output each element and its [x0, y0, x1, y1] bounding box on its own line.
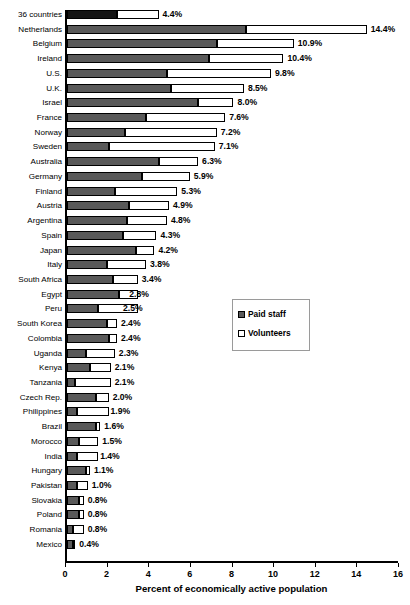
x-axis-tick [65, 563, 66, 567]
bar-segment-paid-staff [67, 187, 115, 196]
category-label: South Korea [17, 319, 62, 329]
x-axis-tick-label: 0 [62, 569, 67, 579]
bar-row: 7.6% [67, 113, 410, 122]
category-label: Japan [40, 246, 62, 256]
bar-value-label: 7.1% [219, 141, 239, 151]
bar-segment-paid-staff [67, 334, 109, 343]
bar-segment-paid-staff [67, 142, 109, 151]
bar-value-label: 5.3% [181, 186, 201, 196]
category-label: Israel [42, 98, 62, 108]
bar-row: 4.4% [67, 10, 410, 19]
bar-segment-volunteers [90, 363, 111, 372]
bar-segment-volunteers [117, 10, 159, 19]
x-axis-tick-label: 4 [146, 569, 151, 579]
legend-swatch-volunteers [238, 330, 245, 337]
category-label: Italy [47, 260, 62, 270]
bar-segment-volunteers [86, 466, 90, 475]
x-axis-tick [190, 563, 191, 567]
bar-segment-paid-staff [67, 246, 136, 255]
x-axis-tick-label: 2 [104, 569, 109, 579]
bar-segment-volunteers [96, 422, 100, 431]
x-axis-tick [315, 563, 316, 567]
bar-row: 0.4% [67, 540, 410, 549]
bar-row: 0.8% [67, 525, 410, 534]
bar-value-label: 5.9% [194, 171, 214, 181]
bar-segment-volunteers [146, 113, 225, 122]
bar-segment-volunteers [73, 540, 75, 549]
x-axis-tick-label: 12 [310, 569, 320, 579]
bar-segment-volunteers [159, 157, 199, 166]
bar-segment-paid-staff [67, 363, 90, 372]
bar-segment-volunteers [73, 525, 83, 534]
bar-segment-paid-staff [67, 54, 209, 63]
bar-value-label: 4.4% [163, 9, 183, 19]
bar-value-label: 3.8% [150, 259, 170, 269]
bar-row: 0.8% [67, 510, 410, 519]
bar-segment-paid-staff [67, 407, 77, 416]
bar-segment-volunteers [79, 437, 98, 446]
legend-item-volunteers: Volunteers [238, 328, 291, 338]
bar-value-label: 0.8% [88, 509, 108, 519]
bar-row: 1.6% [67, 422, 410, 431]
bar-segment-volunteers [86, 349, 115, 358]
category-label: Australia [31, 157, 63, 167]
bar-row: 14.4% [67, 25, 410, 34]
bar-segment-volunteers [113, 275, 138, 284]
category-label: Netherlands [18, 25, 62, 35]
bar-row: 1.0% [67, 481, 410, 490]
bar-value-label: 2.0% [113, 392, 133, 402]
category-label: Sweden [33, 142, 62, 152]
category-label: South Africa [18, 275, 62, 285]
x-axis-tick [273, 563, 274, 567]
bar-row: 8.5% [67, 84, 410, 93]
bar-segment-paid-staff [67, 437, 79, 446]
bar-value-label: 1.9% [111, 406, 131, 416]
bar-value-label: 7.2% [221, 127, 241, 137]
bar-segment-volunteers [77, 452, 98, 461]
bar-value-label: 2.5% [123, 303, 143, 313]
bar-segment-volunteers [79, 496, 83, 505]
bar-row: 10.9% [67, 39, 410, 48]
category-label: Pakistan [31, 481, 62, 491]
category-label: Poland [37, 510, 62, 520]
category-label: Uganda [34, 349, 62, 359]
bar-row: 5.3% [67, 187, 410, 196]
bar-row: 8.0% [67, 98, 410, 107]
bar-row: 2.8% [67, 290, 410, 299]
bar-value-label: 2.4% [121, 318, 141, 328]
category-label: Slovakia [31, 496, 62, 506]
category-label: Ireland [37, 54, 62, 64]
bar-value-label: 10.9% [298, 38, 322, 48]
bar-value-label: 1.1% [94, 465, 114, 475]
bar-row: 1.1% [67, 466, 410, 475]
bar-segment-volunteers [142, 172, 190, 181]
bar-segment-volunteers [107, 319, 117, 328]
x-axis: 0246810121416 [65, 561, 398, 563]
category-label: Hungary [31, 466, 62, 476]
bar-segment-paid-staff [67, 466, 86, 475]
bar-value-label: 2.8% [129, 289, 149, 299]
category-label: Finland [35, 187, 62, 197]
bar-segment-volunteers [77, 407, 108, 416]
bar-row: 6.3% [67, 157, 410, 166]
bar-row: 0.8% [67, 496, 410, 505]
bar-row: 1.5% [67, 437, 410, 446]
category-axis-labels: 36 countriesNetherlandsBelgiumIrelandU.S… [0, 0, 62, 560]
x-axis-tick [148, 563, 149, 567]
bar-segment-paid-staff [67, 25, 246, 34]
bar-value-label: 1.5% [102, 436, 122, 446]
bar-value-label: 1.4% [100, 451, 120, 461]
bar-value-label: 8.5% [248, 83, 268, 93]
bar-value-label: 2.4% [121, 333, 141, 343]
x-axis-tick-label: 16 [393, 569, 403, 579]
x-axis-title: Percent of economically active populatio… [65, 583, 398, 594]
bar-segment-paid-staff [67, 452, 77, 461]
bar-segment-paid-staff [67, 84, 171, 93]
bar-segment-volunteers [123, 231, 156, 240]
bar-row: 4.2% [67, 246, 410, 255]
bar-segment-paid-staff [67, 113, 146, 122]
category-label: Morocco [31, 437, 62, 447]
x-axis-tick [232, 563, 233, 567]
bar-value-label: 9.8% [275, 68, 295, 78]
bar-segment-paid-staff [67, 231, 123, 240]
